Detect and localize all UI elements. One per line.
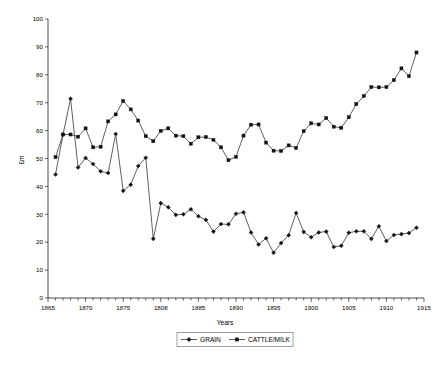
- data-point: [69, 133, 72, 136]
- data-point: [242, 134, 245, 137]
- y-tick-label: 40: [36, 183, 43, 190]
- legend-label: CATTLE/MILK: [248, 336, 291, 343]
- y-tick-label: 70: [36, 99, 43, 106]
- data-point: [354, 229, 358, 233]
- data-point: [114, 113, 117, 116]
- x-tick-label: 1808: [154, 304, 168, 311]
- data-point: [174, 134, 177, 137]
- legend-square-marker-icon: [235, 338, 238, 341]
- data-point: [182, 135, 185, 138]
- data-point: [294, 211, 298, 215]
- data-point: [92, 146, 95, 149]
- data-point: [295, 146, 298, 149]
- data-point: [302, 130, 305, 133]
- data-point: [377, 224, 381, 228]
- x-axis-title: Years: [217, 319, 234, 326]
- data-point: [106, 171, 110, 175]
- data-point: [227, 159, 230, 162]
- data-point: [265, 141, 268, 144]
- data-point: [152, 140, 155, 143]
- data-point: [280, 149, 283, 152]
- data-point: [317, 230, 321, 234]
- data-point: [272, 149, 275, 152]
- data-point: [167, 127, 170, 130]
- data-point: [189, 142, 192, 145]
- data-point: [249, 230, 253, 234]
- data-point: [197, 136, 200, 139]
- data-point: [159, 129, 162, 132]
- data-point: [114, 132, 118, 136]
- data-point: [249, 123, 252, 126]
- x-tick-label: 1865: [41, 304, 55, 311]
- x-tick-label: 1915: [417, 304, 431, 311]
- data-point: [362, 94, 365, 97]
- data-point: [53, 172, 57, 176]
- data-point: [212, 138, 215, 141]
- series-path: [56, 52, 417, 160]
- data-point: [257, 123, 260, 126]
- x-tick-group: 1865187018751808188518901895190019051910…: [41, 298, 431, 311]
- data-point: [204, 218, 208, 222]
- data-point: [400, 67, 403, 70]
- data-point: [99, 145, 102, 148]
- y-tick-label: 80: [36, 71, 43, 78]
- data-point: [181, 212, 185, 216]
- chart-legend: GRAINCATTLE/MILK: [177, 333, 293, 347]
- data-point: [310, 122, 313, 125]
- y-tick-label: 0: [40, 294, 44, 301]
- data-point: [69, 97, 73, 101]
- y-tick-group: 0102030405060708090100: [33, 15, 48, 301]
- data-point: [339, 244, 343, 248]
- y-tick-label: 60: [36, 127, 43, 134]
- y-tick-label: 90: [36, 43, 43, 50]
- data-point: [204, 135, 207, 138]
- y-tick-label: 30: [36, 211, 43, 218]
- data-point: [347, 231, 351, 235]
- data-point: [332, 245, 336, 249]
- y-tick-label: 20: [36, 238, 43, 245]
- data-point: [385, 86, 388, 89]
- data-point: [54, 156, 57, 159]
- data-point: [129, 108, 132, 111]
- data-point: [340, 126, 343, 129]
- line-chart: 0102030405060708090100 £m 18651870187518…: [0, 0, 443, 367]
- data-point: [415, 51, 418, 54]
- data-point: [84, 127, 87, 130]
- data-point: [61, 133, 64, 136]
- chart-container: 0102030405060708090100 £m 18651870187518…: [0, 0, 443, 367]
- legend-label: GRAIN: [200, 336, 221, 343]
- x-tick-label: 1870: [79, 304, 93, 311]
- x-tick-label: 1885: [192, 304, 206, 311]
- x-tick-label: 1875: [116, 304, 130, 311]
- data-point: [392, 79, 395, 82]
- data-point: [325, 116, 328, 119]
- data-point: [324, 230, 328, 234]
- data-point: [77, 135, 80, 138]
- y-axis: 0102030405060708090100 £m: [18, 15, 48, 301]
- data-point: [107, 120, 110, 123]
- y-tick-label: 100: [33, 15, 44, 22]
- x-tick-label: 1900: [304, 304, 318, 311]
- data-point: [317, 123, 320, 126]
- data-point: [287, 144, 290, 147]
- data-point: [234, 155, 237, 158]
- series-layer: [53, 51, 418, 255]
- x-tick-label: 1905: [342, 304, 356, 311]
- data-point: [407, 75, 410, 78]
- data-point: [144, 135, 147, 138]
- data-point: [241, 210, 245, 214]
- x-tick-label: 1895: [267, 304, 281, 311]
- data-point: [332, 125, 335, 128]
- data-point: [370, 86, 373, 89]
- data-point: [122, 99, 125, 102]
- data-point: [219, 146, 222, 149]
- series-cattle-milk: [54, 51, 418, 162]
- data-point: [377, 86, 380, 89]
- y-axis-title: £m: [18, 155, 25, 165]
- x-axis: 1865187018751808188518901895190019051910…: [41, 298, 431, 326]
- y-tick-label: 10: [36, 266, 43, 273]
- data-point: [159, 201, 163, 205]
- data-point: [355, 103, 358, 106]
- data-point: [151, 237, 155, 241]
- x-tick-label: 1910: [380, 304, 394, 311]
